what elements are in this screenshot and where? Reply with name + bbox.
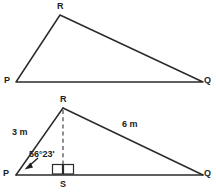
triangle-figure: R P Q R P Q S 3 m 6 m 56°23'	[0, 0, 216, 193]
bottom-vertex-label-r: R	[60, 95, 67, 104]
figure-canvas	[0, 0, 216, 193]
top-triangle-group	[16, 15, 203, 82]
side-length-label-pr: 3 m	[12, 128, 28, 137]
top-vertex-label-r: R	[57, 2, 64, 11]
top-triangle-outline	[16, 15, 203, 82]
side-length-label-rq: 6 m	[122, 120, 138, 129]
bottom-vertex-label-p: P	[3, 169, 9, 178]
top-vertex-label-q: Q	[204, 76, 211, 85]
bottom-vertex-label-s: S	[60, 180, 66, 189]
angle-measure-label-p: 56°23'	[29, 150, 55, 159]
bottom-vertex-label-q: Q	[204, 169, 211, 178]
top-vertex-label-p: P	[4, 76, 10, 85]
right-angle-marker-right	[64, 165, 74, 175]
right-angle-marker-left	[53, 165, 63, 175]
bottom-triangle-group	[16, 108, 203, 175]
